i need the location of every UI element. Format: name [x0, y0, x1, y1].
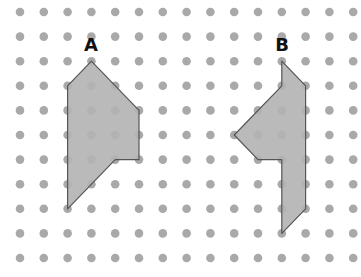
grid-dot: [40, 205, 49, 214]
grid-dot: [40, 106, 49, 115]
grid-dot: [230, 229, 239, 238]
grid-dot: [349, 32, 358, 41]
grid-dot: [254, 205, 263, 214]
grid-dot: [111, 254, 120, 263]
grid-dot: [206, 180, 215, 189]
grid-dot: [182, 82, 191, 91]
shape-a-polygon: [68, 61, 139, 209]
grid-dot: [16, 32, 25, 41]
grid-dot: [325, 155, 334, 164]
grid-dot: [63, 229, 72, 238]
grid-dot: [182, 106, 191, 115]
grid-dot: [87, 205, 96, 214]
grid-dot: [63, 32, 72, 41]
grid-dot: [254, 180, 263, 189]
grid-dot: [16, 106, 25, 115]
grid-dot: [16, 131, 25, 140]
grid-dot: [278, 254, 287, 263]
grid-dot: [349, 82, 358, 91]
grid-dot: [349, 155, 358, 164]
grid-dot: [206, 205, 215, 214]
grid-dot: [159, 155, 168, 164]
grid-dot: [230, 106, 239, 115]
grid-dot: [40, 32, 49, 41]
grid-dot: [349, 57, 358, 66]
grid-dot: [230, 155, 239, 164]
grid-dot: [40, 254, 49, 263]
grid-dot: [63, 57, 72, 66]
grid-dot: [40, 8, 49, 17]
grid-dot: [349, 180, 358, 189]
grid-dot: [159, 82, 168, 91]
grid-dot: [230, 254, 239, 263]
grid-dot: [230, 180, 239, 189]
grid-dot: [206, 57, 215, 66]
grid-dot: [16, 155, 25, 164]
grid-dot: [135, 254, 144, 263]
grid-dot: [325, 131, 334, 140]
grid-dot: [111, 229, 120, 238]
grid-dot: [182, 131, 191, 140]
grid-dot: [135, 180, 144, 189]
grid-dot: [254, 8, 263, 17]
grid-dot: [182, 155, 191, 164]
shape-a-label: A: [84, 34, 98, 55]
grid-dot: [135, 32, 144, 41]
grid-dot: [301, 229, 310, 238]
grid-dot: [40, 57, 49, 66]
grid-dot: [159, 57, 168, 66]
grid-dot: [87, 8, 96, 17]
grid-dot: [182, 180, 191, 189]
grid-dot: [16, 229, 25, 238]
grid-dot: [16, 8, 25, 17]
grid-dot: [206, 82, 215, 91]
dot-grid-diagram: A B: [0, 0, 361, 277]
grid-dot: [254, 32, 263, 41]
grid-dot: [325, 82, 334, 91]
grid-dot: [159, 205, 168, 214]
grid-dot: [206, 254, 215, 263]
grid-dot: [206, 131, 215, 140]
grid-dot: [63, 254, 72, 263]
grid-dot: [182, 229, 191, 238]
grid-dot: [349, 131, 358, 140]
grid-dot: [325, 205, 334, 214]
grid-dot: [63, 8, 72, 17]
grid-dot: [182, 205, 191, 214]
grid-dot: [40, 131, 49, 140]
grid-dot: [230, 32, 239, 41]
grid-dot: [230, 82, 239, 91]
grid-dot: [111, 205, 120, 214]
grid-dot: [206, 106, 215, 115]
grid-dot: [325, 57, 334, 66]
grid-dot: [135, 57, 144, 66]
grid-dot: [349, 8, 358, 17]
grid-dot: [159, 254, 168, 263]
grid-dot: [301, 32, 310, 41]
grid-dot: [254, 229, 263, 238]
grid-dot: [301, 254, 310, 263]
grid-dot: [349, 106, 358, 115]
grid-dot: [159, 229, 168, 238]
grid-dot: [111, 8, 120, 17]
grid-dot: [111, 180, 120, 189]
grid-dot: [230, 8, 239, 17]
grid-dot: [325, 229, 334, 238]
grid-dot: [16, 57, 25, 66]
grid-dot: [159, 8, 168, 17]
grid-dot: [206, 8, 215, 17]
grid-dot: [16, 205, 25, 214]
grid-dot: [325, 8, 334, 17]
grid-dot: [40, 229, 49, 238]
grid-dot: [325, 106, 334, 115]
grid-dot: [159, 131, 168, 140]
dot-grid: [16, 8, 358, 263]
grid-dot: [254, 82, 263, 91]
grid-dot: [325, 180, 334, 189]
grid-dot: [87, 254, 96, 263]
grid-dot: [87, 229, 96, 238]
grid-dot: [40, 155, 49, 164]
grid-dot: [182, 8, 191, 17]
grid-dot: [230, 205, 239, 214]
shape-b-polygon: [234, 61, 305, 233]
